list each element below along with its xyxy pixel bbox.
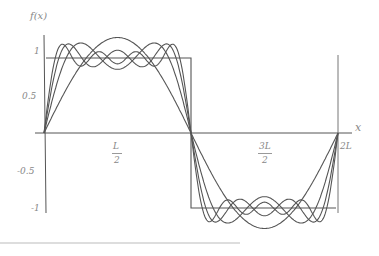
y-tick-0.5: 0.5 (22, 91, 36, 101)
y-tick-neg1: -1 (31, 203, 40, 213)
x-tick-half-num: L (113, 141, 119, 151)
fourier-plot (0, 0, 379, 256)
y-tick-neg0.5: -0.5 (17, 166, 34, 176)
x-tick-2L: 2L (340, 141, 352, 151)
x-tick-threehalf-den: 2 (262, 155, 268, 165)
x-axis-label: x (355, 121, 361, 134)
x-tick-half-den: 2 (114, 155, 120, 165)
x-tick-threehalf-num: 3L (259, 141, 271, 151)
y-axis-label: f(x) (30, 10, 47, 21)
y-tick-1: 1 (34, 46, 40, 56)
